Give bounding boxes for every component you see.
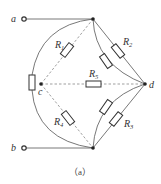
terminal-b	[22, 146, 26, 150]
wire-left-arc-bottom	[32, 90, 93, 148]
node-d	[143, 82, 147, 86]
label-b: b	[11, 142, 16, 153]
label-a: a	[11, 13, 16, 24]
resistor-inner-bottom	[100, 100, 113, 115]
label-R4: R4	[53, 116, 64, 128]
resistor-inner-top	[100, 54, 113, 69]
circuit-diagram: a b c d R1 R2 R3 R4 R5 （a）	[0, 0, 161, 184]
resistor-R3	[109, 112, 122, 127]
label-R5: R5	[88, 68, 99, 80]
terminal-a	[22, 17, 26, 21]
caption: （a）	[69, 167, 91, 177]
label-R1: R1	[54, 39, 64, 51]
node-bottom	[91, 146, 95, 150]
label-d: d	[149, 79, 155, 90]
resistor-left	[29, 75, 35, 90]
resistor-R5	[86, 81, 101, 87]
label-c: c	[38, 86, 43, 97]
node-top	[91, 17, 95, 21]
label-R2: R2	[122, 36, 133, 48]
label-R3: R3	[123, 118, 134, 130]
